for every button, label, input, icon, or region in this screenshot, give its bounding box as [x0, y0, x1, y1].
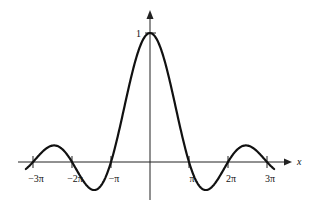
- x-axis-label: x: [296, 156, 302, 167]
- x-tick-label: −π: [109, 173, 120, 184]
- y-axis-arrow-icon: [147, 10, 154, 19]
- x-tick-label: 3π: [265, 173, 275, 184]
- sinc-plot: x 1 −3π−2π−ππ2π3π: [0, 0, 314, 205]
- x-tick-label: −3π: [28, 173, 44, 184]
- x-tick-label: 2π: [226, 173, 236, 184]
- y-tick-label-1: 1: [136, 28, 141, 39]
- x-ticks: −3π−2π−ππ2π3π: [28, 156, 275, 184]
- x-axis-arrow-icon: [284, 159, 292, 166]
